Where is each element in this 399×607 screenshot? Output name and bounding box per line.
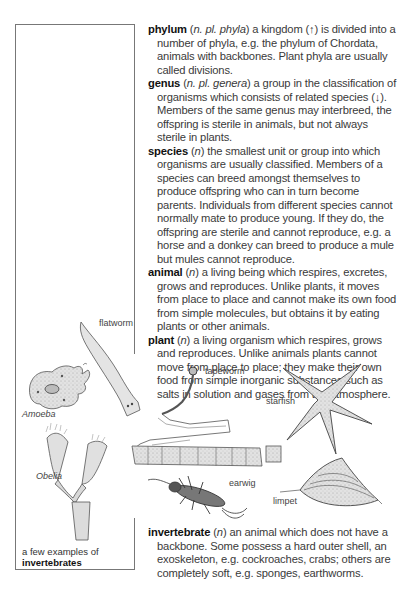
tapeworm-icon: [132, 367, 281, 466]
label-tapeworm: tapeworm: [205, 366, 245, 376]
label-amoeba: Amoeba: [22, 409, 56, 419]
flatworm-icon: [80, 322, 140, 416]
obelia-icon: [46, 423, 107, 540]
label-earwig: earwig: [229, 478, 256, 488]
starfish-icon: [283, 364, 372, 454]
invertebrates-illustration: [0, 0, 399, 607]
label-flatworm: flatworm: [99, 318, 133, 328]
illustration-caption: a few examples of invertebrates: [22, 546, 99, 568]
caption-line2: invertebrates: [22, 557, 82, 568]
label-obelia: Obelia: [36, 471, 62, 481]
label-limpet: limpet: [273, 496, 297, 506]
caption-line1: a few examples of: [22, 546, 99, 557]
amoeba-icon: [29, 363, 89, 409]
label-starfish: starfish: [266, 396, 295, 406]
